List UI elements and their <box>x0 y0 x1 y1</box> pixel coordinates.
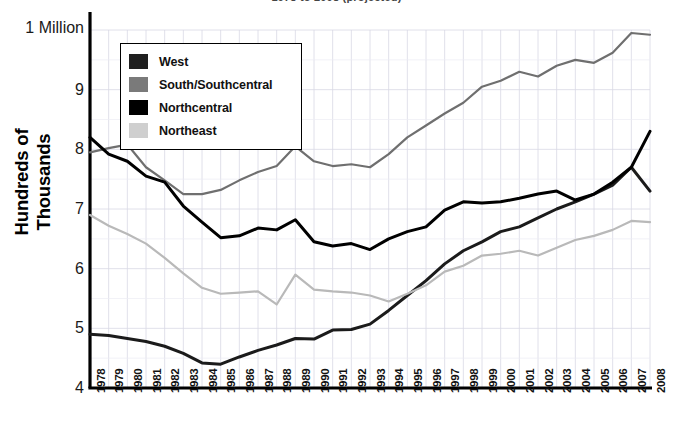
legend-swatch-northcentral <box>129 100 148 115</box>
legend-item: Northeast <box>129 119 293 142</box>
x-tick-label: 2002 <box>543 369 555 393</box>
x-tick-label: 1985 <box>225 369 237 393</box>
x-tick-label: 1998 <box>468 369 480 393</box>
x-tick-label: 1993 <box>375 369 387 393</box>
x-axis-labels: 1978197919801981198219831984198519861987… <box>0 0 673 439</box>
legend-label-west: West <box>159 55 188 69</box>
x-tick-label: 1987 <box>263 369 275 393</box>
legend-item: South/Southcentral <box>129 73 293 96</box>
x-tick-label: 2007 <box>636 369 648 393</box>
x-tick-label: 1996 <box>431 369 443 393</box>
x-tick-label: 2000 <box>505 369 517 393</box>
x-tick-label: 1979 <box>113 369 125 393</box>
x-tick-label: 1990 <box>319 369 331 393</box>
x-tick-label: 2008 <box>655 369 667 393</box>
legend-item: West <box>129 50 293 73</box>
legend-swatch-northeast <box>129 123 148 138</box>
x-tick-label: 2004 <box>580 369 592 393</box>
x-tick-label: 1981 <box>151 369 163 393</box>
x-tick-label: 1991 <box>337 369 349 393</box>
legend-item: Northcentral <box>129 96 293 119</box>
x-tick-label: 1980 <box>132 369 144 393</box>
x-tick-label: 2005 <box>599 369 611 393</box>
x-tick-label: 2006 <box>617 369 629 393</box>
x-tick-label: 1992 <box>356 369 368 393</box>
legend-label-northcentral: Northcentral <box>159 101 232 115</box>
legend-label-northeast: Northeast <box>159 124 216 138</box>
legend-swatch-west <box>129 54 148 69</box>
x-tick-label: 1994 <box>393 369 405 393</box>
chart-legend: West South/Southcentral Northcentral Nor… <box>120 43 302 150</box>
legend-label-south-southcentral: South/Southcentral <box>159 78 272 92</box>
x-tick-label: 1995 <box>412 369 424 393</box>
x-tick-label: 1984 <box>207 369 219 393</box>
legend-swatch-south-southcentral <box>129 77 148 92</box>
x-tick-label: 1988 <box>281 369 293 393</box>
x-tick-label: 1983 <box>188 369 200 393</box>
chart-container: 1978 to 2008 (projected) Hundreds of Tho… <box>0 0 673 439</box>
x-tick-label: 1999 <box>487 369 499 393</box>
x-tick-label: 1978 <box>95 369 107 393</box>
x-tick-label: 2003 <box>561 369 573 393</box>
x-tick-label: 2001 <box>524 369 536 393</box>
x-tick-label: 1982 <box>169 369 181 393</box>
x-tick-label: 1989 <box>300 369 312 393</box>
x-tick-label: 1986 <box>244 369 256 393</box>
x-tick-label: 1997 <box>449 369 461 393</box>
